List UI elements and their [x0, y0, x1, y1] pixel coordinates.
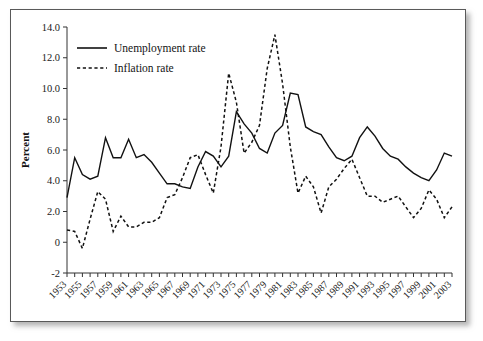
- y-tick-label: 0: [55, 237, 60, 248]
- y-tick-label: 8.0: [47, 114, 60, 125]
- line-chart: 14.012.010.08.06.04.02.00-21953195519571…: [11, 10, 464, 320]
- series-line-1: [67, 93, 452, 198]
- y-tick-label: 2.0: [47, 206, 60, 217]
- y-tick-label: -2: [51, 268, 60, 279]
- y-axis-title: Percent: [19, 132, 31, 168]
- figure-frame: 14.012.010.08.06.04.02.00-21953195519571…: [10, 9, 466, 322]
- y-tick-label: 4.0: [47, 175, 60, 186]
- figure-root: 14.012.010.08.06.04.02.00-21953195519571…: [0, 0, 483, 341]
- x-tick-label: 2003: [431, 279, 453, 301]
- y-tick-label: 14.0: [42, 22, 60, 33]
- y-tick-label: 12.0: [42, 52, 60, 63]
- legend-label-2: Inflation rate: [114, 62, 174, 74]
- y-tick-label: 6.0: [47, 145, 60, 156]
- y-tick-label: 10.0: [42, 83, 60, 94]
- legend-label-1: Unemployment rate: [114, 42, 206, 55]
